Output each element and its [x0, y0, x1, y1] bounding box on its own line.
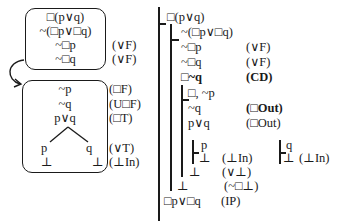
formula: ~□p — [181, 40, 202, 54]
formula: ⊥ — [283, 151, 295, 165]
scope-line-ip — [170, 24, 172, 191]
formula: ⊥ — [189, 165, 201, 179]
justification: (□Out) — [246, 116, 281, 130]
justification: (∨F) — [246, 55, 270, 69]
formula: ⊥ — [199, 151, 211, 165]
justification: (□Out) — [246, 101, 283, 115]
p-assumption-bar — [192, 152, 199, 154]
formula: p — [201, 138, 207, 152]
justification: (∨F) — [246, 40, 270, 54]
formula: ~q — [188, 101, 201, 115]
justification: (⊥In) — [299, 151, 330, 165]
justification: (⊥In) — [222, 151, 253, 165]
justification: (IP) — [221, 194, 240, 208]
formula: ~□q — [181, 55, 202, 69]
formula: □~q — [181, 70, 202, 84]
scope-line-outer — [158, 7, 160, 221]
justification: (CD) — [246, 70, 272, 84]
justification: (∨⊥) — [222, 165, 251, 179]
formula: □p∨□q — [164, 194, 201, 208]
justification: (~□⊥) — [224, 179, 258, 193]
formula: p∨q — [188, 116, 210, 130]
premise-bar — [158, 23, 166, 25]
formula: ~(□p∨□q) — [181, 25, 233, 39]
formula: ⊥ — [177, 179, 189, 193]
formula: q — [286, 138, 292, 152]
formula: □(p∨q) — [167, 10, 205, 24]
assumption-bar — [170, 39, 179, 41]
formula: □, ~p — [188, 86, 215, 100]
